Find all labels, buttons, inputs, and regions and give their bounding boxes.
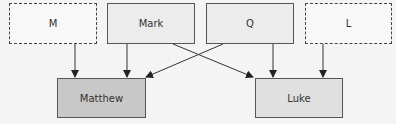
node-mark-label: Mark bbox=[139, 18, 164, 29]
node-luke-label: Luke bbox=[287, 93, 310, 104]
node-luke: Luke bbox=[255, 78, 343, 118]
node-q-label: Q bbox=[246, 18, 254, 29]
node-q: Q bbox=[206, 3, 294, 44]
node-mark: Mark bbox=[107, 3, 195, 44]
node-l: L bbox=[305, 3, 392, 44]
node-l-label: L bbox=[346, 18, 352, 29]
node-matthew-label: Matthew bbox=[80, 93, 123, 104]
node-m-label: M bbox=[49, 18, 58, 29]
node-m: M bbox=[9, 3, 97, 44]
node-matthew: Matthew bbox=[57, 78, 146, 118]
